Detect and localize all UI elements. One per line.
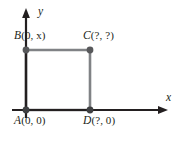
y-axis [22,8,30,118]
arrowhead-up-icon [22,8,30,18]
coordinate-plane-figure: B(0, x) C(?, ?) A(0, 0) D(?, 0) y x [0,0,187,146]
vertex-dot-a [23,107,30,114]
vertex-dot-c [87,47,94,54]
square-edges [26,50,90,110]
vertex-label-c: C(?, ?) [83,30,114,42]
vertex-label-b: B(0, x) [14,30,46,42]
vertex-dot-b [23,47,30,54]
vertex-dots [23,47,94,114]
vertex-dot-d [87,107,94,114]
vertex-coordinates-d: (?, 0) [91,114,115,126]
vertex-coordinates-a: (0, 0) [21,114,45,126]
vertex-label-a: A(0, 0) [14,115,46,127]
vertex-coordinates-b: (0, x) [21,29,45,41]
arrowhead-right-icon [158,106,168,114]
vertex-coordinates-c: (?, ?) [91,29,114,41]
y-axis-label: y [38,6,43,18]
vertex-letter-c: C [83,29,91,41]
x-axis-label: x [166,92,171,104]
vertex-label-d: D(?, 0) [83,115,115,127]
